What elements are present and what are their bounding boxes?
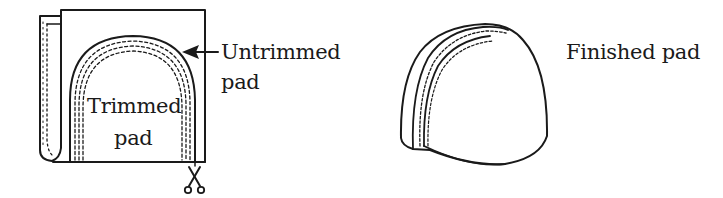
- folded-flap: [40, 16, 61, 161]
- finished-pad-label: Finished pad: [566, 42, 700, 63]
- pad-diagram: Untrimmed pad Trimmed pad Finished pad: [0, 0, 723, 198]
- trimmed-label-line2: pad: [114, 128, 153, 149]
- scissors-icon: [185, 167, 204, 193]
- untrimmed-label-line2: pad: [221, 72, 260, 93]
- trimmed-label-line1: Trimmed: [87, 96, 181, 117]
- arrow-left-icon: [182, 45, 218, 59]
- untrimmed-label-line1: Untrimmed: [221, 42, 340, 63]
- finished-pad-shape: [401, 24, 547, 165]
